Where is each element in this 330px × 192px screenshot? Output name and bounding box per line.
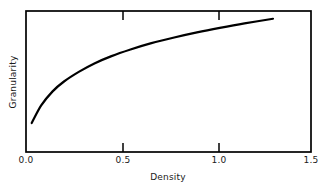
xaxis-tick-label-3: 1.5 (304, 155, 319, 165)
xaxis-tick-label-0: 0.0 (19, 155, 34, 165)
yaxis-title: Granularity (8, 56, 18, 109)
plot-area (0, 0, 330, 192)
xaxis-tick-label-2: 1.0 (212, 155, 227, 165)
chart-figure: 0.0 0.5 1.0 1.5 Density Granularity (0, 0, 330, 192)
xaxis-title: Density (150, 172, 186, 182)
xaxis-tick-label-1: 0.5 (116, 155, 131, 165)
